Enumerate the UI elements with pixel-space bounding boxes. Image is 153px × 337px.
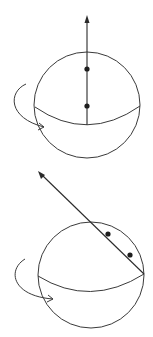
bottom-sphere-panel — [15, 171, 144, 328]
top-axis-dot-lower — [84, 103, 89, 108]
top-axis-dot-upper — [84, 66, 89, 71]
bottom-sphere-equator — [38, 274, 144, 292]
top-rotation-arrow — [14, 84, 44, 127]
top-sphere-panel — [14, 15, 140, 158]
bottom-rotation-axis — [43, 176, 144, 274]
bottom-axis-dot-upper — [105, 231, 110, 236]
top-axis-arrowhead-icon — [85, 15, 90, 23]
bottom-axis-arrowhead-icon — [38, 171, 45, 179]
bottom-rotation-arrow — [15, 259, 53, 299]
diagram-canvas — [0, 0, 153, 337]
bottom-axis-dot-lower — [127, 252, 132, 257]
bottom-sphere-outline — [38, 222, 144, 328]
